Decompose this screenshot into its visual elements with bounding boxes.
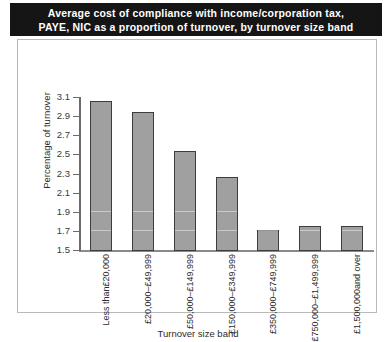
bar-band xyxy=(217,211,237,212)
x-axis-tick-label-slot: £350,000–£749,999 xyxy=(251,254,285,324)
bar xyxy=(90,101,112,251)
y-axis-tick-label-wrap: 2.1 xyxy=(40,193,70,203)
x-axis-tick-label-line: £49,999 xyxy=(143,254,154,287)
x-axis-tick-label-line: and over xyxy=(352,254,363,289)
y-axis-tick-label: 2.3 xyxy=(44,169,70,179)
x-axis-tick-label-line: – xyxy=(185,292,196,297)
x-axis-tick-label-line: £349,999 xyxy=(227,254,238,292)
y-axis-tick-label-wrap: 1.7 xyxy=(40,231,70,241)
x-axis-tick-label-slot: £750,000–£1,499,999 xyxy=(293,254,327,324)
bar xyxy=(257,230,279,251)
y-axis-tick-label-wrap: 2.7 xyxy=(40,135,70,145)
bar-band xyxy=(217,230,237,231)
x-axis-tick-label-line: £50,000 xyxy=(185,297,196,330)
bar-band xyxy=(342,230,362,231)
x-axis-tick-label-line: £20,000 xyxy=(101,254,112,287)
bar-band xyxy=(175,211,195,212)
x-axis-tick-label-line: £149,999 xyxy=(185,254,196,292)
chart-frame: Percentage of turnover 1.51.71.92.12.32.… xyxy=(17,39,377,313)
y-axis-tick-label-wrap: 1.9 xyxy=(40,212,70,222)
bar-band xyxy=(91,211,111,212)
y-axis-tick-label-wrap: 2.9 xyxy=(40,116,70,126)
bar-band xyxy=(300,230,320,231)
x-axis-tick-label-line: – xyxy=(310,299,321,304)
chart-title-banner: Average cost of compliance with income/c… xyxy=(10,3,382,36)
x-axis-tick-label-line: – xyxy=(143,287,154,292)
x-axis-tick-label-slot: £150,000–£349,999 xyxy=(210,254,244,324)
chart-title-line-2: PAYE, NIC as a proportion of turnover, b… xyxy=(39,20,354,34)
y-axis-tick-label: 3.1 xyxy=(44,92,70,102)
x-axis-tick-label-slot: £50,000–£149,999 xyxy=(168,254,202,324)
plot-area xyxy=(80,98,372,251)
x-axis-tick-label-slot: Less than£20,000 xyxy=(84,254,118,324)
x-axis-tick-label-slot: £1,500,000and over xyxy=(335,254,369,324)
x-axis-tick-label: £50,000–£149,999 xyxy=(185,254,196,329)
y-axis-tick-label-wrap: 1.5 xyxy=(40,250,70,260)
y-axis-tick-label-wrap: 2.3 xyxy=(40,174,70,184)
bar xyxy=(216,177,238,251)
x-axis-tick-label-line: – xyxy=(268,292,279,297)
x-axis-tick-label-line: £749,999 xyxy=(268,254,279,292)
x-axis-tick-label-line: £20,000 xyxy=(143,292,154,325)
y-axis-tick-label: 1.5 xyxy=(44,245,70,255)
x-axis-tick-label: £20,000–£49,999 xyxy=(143,254,154,324)
chart-title-line-1: Average cost of compliance with income/c… xyxy=(48,6,344,20)
y-axis-tick-label: 2.5 xyxy=(44,149,70,159)
x-axis-tick-label-line: Less than xyxy=(101,287,112,326)
x-axis-tick-label: £150,000–£349,999 xyxy=(227,254,238,334)
bar xyxy=(174,151,196,251)
bar-band xyxy=(175,230,195,231)
y-axis-tick-label: 2.7 xyxy=(44,130,70,140)
x-axis-tick-label-slot: £20,000–£49,999 xyxy=(126,254,160,324)
x-axis-tick-label-line: – xyxy=(227,292,238,297)
bar xyxy=(132,112,154,251)
y-axis-tick-label: 2.9 xyxy=(44,111,70,121)
y-axis-tick-label-wrap: 3.1 xyxy=(40,97,70,107)
bar-band xyxy=(133,211,153,212)
bar-band xyxy=(258,230,278,231)
y-axis-tick-label: 1.9 xyxy=(44,207,70,217)
x-axis-tick-label: £350,000–£749,999 xyxy=(268,254,279,334)
bar-band xyxy=(133,230,153,231)
bar-band xyxy=(91,230,111,231)
y-axis-tick-label: 2.1 xyxy=(44,188,70,198)
x-axis-tick-label: Less than£20,000 xyxy=(101,254,112,326)
y-axis-tick-label: 1.7 xyxy=(44,226,70,236)
x-axis-tick-label: £1,500,000and over xyxy=(352,254,363,334)
x-axis-title: Turnover size band xyxy=(18,328,378,339)
x-axis-tick-label-line: £1,499,999 xyxy=(310,254,321,299)
bar xyxy=(341,226,363,251)
bar xyxy=(299,226,321,251)
y-axis-tick-label-wrap: 2.5 xyxy=(40,154,70,164)
